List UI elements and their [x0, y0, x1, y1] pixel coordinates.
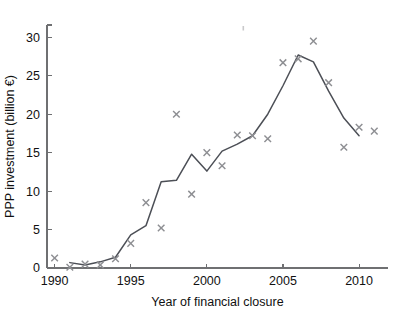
x-tick-label: 2005 — [269, 274, 297, 288]
data-point-marker — [310, 38, 317, 45]
data-point-marker — [188, 191, 195, 198]
data-point-marker — [51, 255, 58, 262]
x-axis-title: Year of financial closure — [151, 295, 283, 309]
y-tick-label: 30 — [26, 31, 40, 45]
y-axis-title: PPP investment (billion €) — [3, 75, 17, 218]
y-tick-label: 25 — [26, 69, 40, 83]
data-point-marker — [204, 149, 211, 156]
data-point-marker — [143, 199, 150, 206]
data-point-marker — [280, 59, 287, 66]
data-point-marker — [158, 225, 165, 232]
y-tick-label: 20 — [26, 108, 40, 122]
data-point-marker — [371, 128, 378, 135]
data-point-marker — [341, 144, 348, 151]
ppp-investment-chart: 05101520253019901995200020052010Year of … — [0, 0, 399, 316]
data-point-marker — [219, 162, 226, 169]
x-tick-label: 2010 — [345, 274, 373, 288]
x-tick-label: 1995 — [117, 274, 145, 288]
y-tick-label: 5 — [33, 223, 40, 237]
data-point-marker — [173, 111, 180, 118]
data-point-marker — [264, 136, 271, 143]
x-tick-label: 1990 — [41, 274, 69, 288]
data-point-marker — [234, 132, 241, 139]
trend-line — [70, 55, 359, 265]
y-axis: 051015202530 — [26, 25, 51, 275]
data-point-marker — [356, 124, 363, 131]
scan-artifact — [243, 26, 245, 31]
y-tick-label: 0 — [33, 261, 40, 275]
data-point-marker — [127, 240, 134, 247]
data-point-marker — [249, 132, 256, 139]
data-point-marker — [325, 79, 332, 86]
data-point-marker — [67, 264, 74, 271]
y-tick-label: 15 — [26, 146, 40, 160]
x-tick-label: 2000 — [193, 274, 221, 288]
x-axis: 19901995200020052010 — [41, 264, 388, 289]
scatter-series — [51, 38, 377, 271]
y-tick-label: 10 — [26, 185, 40, 199]
